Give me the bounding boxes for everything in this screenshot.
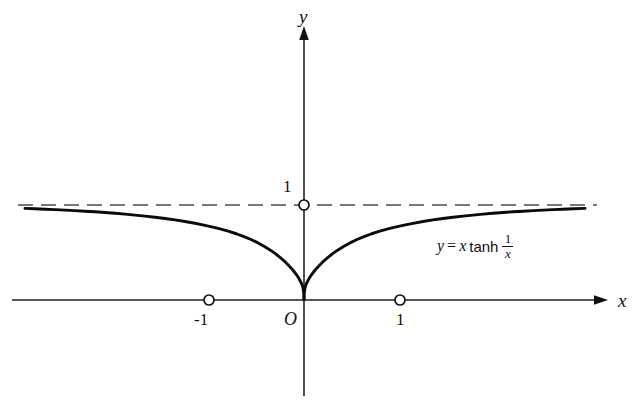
open-circle-y-1 xyxy=(299,200,309,210)
plot-canvas xyxy=(0,0,638,416)
y-axis-label: y xyxy=(299,7,307,26)
equation-fraction: 1 x xyxy=(502,232,513,260)
equation-equals: = xyxy=(444,237,459,255)
open-circle-x-plus-1 xyxy=(395,295,405,305)
x-axis-label: x xyxy=(618,291,626,310)
curve-left-branch xyxy=(25,208,304,299)
fraction-numerator: 1 xyxy=(503,232,514,246)
function-plot-figure: y x 1 -1 1 O y = x tanh 1 x xyxy=(0,0,638,416)
x-axis-arrowhead xyxy=(594,295,608,305)
y-axis-arrowhead xyxy=(299,26,309,40)
equation-variable: x xyxy=(459,237,466,255)
equation-annotation: y = x tanh 1 x xyxy=(437,232,513,260)
y-tick-label-1: 1 xyxy=(283,178,292,195)
fraction-denominator: x xyxy=(503,247,513,261)
equation-lhs: y xyxy=(437,237,444,255)
open-circle-x-minus-1 xyxy=(204,295,214,305)
x-tick-label-1: 1 xyxy=(396,311,405,328)
x-tick-label-minus-1: -1 xyxy=(194,311,208,328)
origin-label: O xyxy=(284,310,297,328)
equation-function-name: tanh xyxy=(466,238,498,255)
